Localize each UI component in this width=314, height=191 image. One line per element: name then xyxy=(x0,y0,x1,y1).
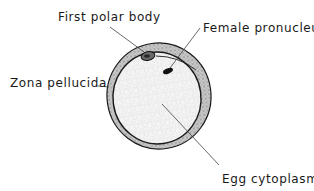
label-first-polar-body: First polar body xyxy=(58,10,161,24)
egg-diagram: First polar body Female pronucleus Zona … xyxy=(0,0,314,191)
label-zona-pellucida: Zona pellucida xyxy=(10,76,107,90)
leader-first-polar-body xyxy=(110,27,144,52)
label-egg-cytoplasm: Egg cytoplasm xyxy=(222,172,314,186)
label-female-pronucleus: Female pronucleus xyxy=(203,21,314,35)
